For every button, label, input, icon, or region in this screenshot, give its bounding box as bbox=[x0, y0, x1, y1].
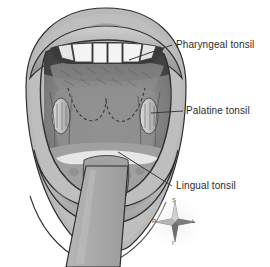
compass-label-left: L bbox=[192, 218, 195, 224]
compass-label-superior: S bbox=[172, 197, 176, 203]
label-pharyngeal-tonsil: Pharyngeal tonsil bbox=[176, 40, 254, 50]
label-lingual-tonsil: Lingual tonsil bbox=[176, 181, 236, 191]
upper-teeth bbox=[50, 42, 164, 64]
compass-label-inferior: I bbox=[172, 240, 174, 246]
compass-label-right: R bbox=[152, 218, 156, 224]
label-palatine-tonsil: Palatine tonsil bbox=[186, 106, 250, 116]
tonsils-anatomy-figure: Pharyngeal tonsil Palatine tonsil Lingua… bbox=[0, 0, 270, 267]
